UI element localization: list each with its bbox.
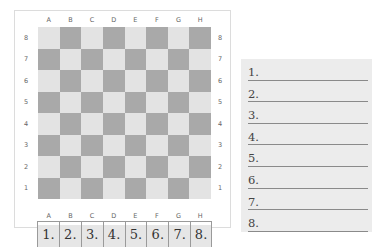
square-a6[interactable] xyxy=(38,70,60,92)
square-h6[interactable] xyxy=(189,70,211,92)
square-g6[interactable] xyxy=(168,70,190,92)
file-label-a: A xyxy=(38,15,60,25)
answer-line-5[interactable]: 5. xyxy=(248,145,368,167)
square-g2[interactable] xyxy=(168,156,190,178)
square-b3[interactable] xyxy=(60,135,82,157)
file-label-h: H xyxy=(189,211,211,221)
square-a8[interactable] xyxy=(38,27,60,49)
square-c5[interactable] xyxy=(81,92,103,114)
column-tab-3[interactable]: 3. xyxy=(81,222,103,247)
square-e2[interactable] xyxy=(125,156,147,178)
square-d4[interactable] xyxy=(103,113,125,135)
square-c6[interactable] xyxy=(81,70,103,92)
answer-line-2[interactable]: 2. xyxy=(248,81,368,103)
square-g5[interactable] xyxy=(168,92,190,114)
rank-label-4: 4 xyxy=(214,120,226,128)
column-tab-6[interactable]: 6. xyxy=(146,222,168,247)
square-h7[interactable] xyxy=(189,49,211,71)
square-d1[interactable] xyxy=(103,178,125,200)
square-f7[interactable] xyxy=(146,49,168,71)
column-tab-1[interactable]: 1. xyxy=(37,222,59,247)
square-d5[interactable] xyxy=(103,92,125,114)
square-f6[interactable] xyxy=(146,70,168,92)
square-d8[interactable] xyxy=(103,27,125,49)
square-c2[interactable] xyxy=(81,156,103,178)
square-g1[interactable] xyxy=(168,178,190,200)
square-g4[interactable] xyxy=(168,113,190,135)
file-label-c: C xyxy=(81,211,103,221)
file-label-d: D xyxy=(103,15,125,25)
square-d3[interactable] xyxy=(103,135,125,157)
answer-line-4[interactable]: 4. xyxy=(248,124,368,146)
column-tab-8[interactable]: 8. xyxy=(190,222,212,247)
square-g8[interactable] xyxy=(168,27,190,49)
square-c7[interactable] xyxy=(81,49,103,71)
column-tab-7[interactable]: 7. xyxy=(168,222,190,247)
square-g3[interactable] xyxy=(168,135,190,157)
square-c4[interactable] xyxy=(81,113,103,135)
rank-labels-left: 8 7 6 5 4 3 2 1 xyxy=(20,27,32,199)
square-e6[interactable] xyxy=(125,70,147,92)
file-label-f: F xyxy=(146,15,168,25)
square-f3[interactable] xyxy=(146,135,168,157)
answer-line-6[interactable]: 6. xyxy=(248,167,368,189)
square-a2[interactable] xyxy=(38,156,60,178)
rank-label-2: 2 xyxy=(20,163,32,171)
square-a3[interactable] xyxy=(38,135,60,157)
square-h3[interactable] xyxy=(189,135,211,157)
file-label-g: G xyxy=(168,211,190,221)
square-c1[interactable] xyxy=(81,178,103,200)
file-labels-top: A B C D E F G H xyxy=(38,15,211,25)
rank-label-5: 5 xyxy=(214,98,226,106)
square-e1[interactable] xyxy=(125,178,147,200)
answer-line-1[interactable]: 1. xyxy=(248,59,368,81)
column-tab-4[interactable]: 4. xyxy=(103,222,125,247)
square-b7[interactable] xyxy=(60,49,82,71)
square-f4[interactable] xyxy=(146,113,168,135)
square-b4[interactable] xyxy=(60,113,82,135)
square-b2[interactable] xyxy=(60,156,82,178)
rank-label-4: 4 xyxy=(20,120,32,128)
file-labels-bottom: A B C D E F G H xyxy=(38,211,211,221)
square-b6[interactable] xyxy=(60,70,82,92)
square-h8[interactable] xyxy=(189,27,211,49)
square-d2[interactable] xyxy=(103,156,125,178)
square-f8[interactable] xyxy=(146,27,168,49)
square-f2[interactable] xyxy=(146,156,168,178)
square-a7[interactable] xyxy=(38,49,60,71)
square-b8[interactable] xyxy=(60,27,82,49)
square-e4[interactable] xyxy=(125,113,147,135)
rank-labels-right: 8 7 6 5 4 3 2 1 xyxy=(214,27,226,199)
square-c3[interactable] xyxy=(81,135,103,157)
square-d7[interactable] xyxy=(103,49,125,71)
square-f5[interactable] xyxy=(146,92,168,114)
answer-line-3[interactable]: 3. xyxy=(248,102,368,124)
column-tab-2[interactable]: 2. xyxy=(59,222,81,247)
square-a1[interactable] xyxy=(38,178,60,200)
square-f1[interactable] xyxy=(146,178,168,200)
square-h1[interactable] xyxy=(189,178,211,200)
square-b5[interactable] xyxy=(60,92,82,114)
square-e5[interactable] xyxy=(125,92,147,114)
file-label-f: F xyxy=(146,211,168,221)
square-d6[interactable] xyxy=(103,70,125,92)
answer-line-8[interactable]: 8. xyxy=(248,210,368,232)
square-a5[interactable] xyxy=(38,92,60,114)
square-e8[interactable] xyxy=(125,27,147,49)
file-label-a: A xyxy=(38,211,60,221)
file-label-e: E xyxy=(125,211,147,221)
square-e3[interactable] xyxy=(125,135,147,157)
square-h2[interactable] xyxy=(189,156,211,178)
square-c8[interactable] xyxy=(81,27,103,49)
square-e7[interactable] xyxy=(125,49,147,71)
square-h5[interactable] xyxy=(189,92,211,114)
file-label-d: D xyxy=(103,211,125,221)
square-h4[interactable] xyxy=(189,113,211,135)
file-label-h: H xyxy=(189,15,211,25)
square-a4[interactable] xyxy=(38,113,60,135)
file-label-g: G xyxy=(168,15,190,25)
square-g7[interactable] xyxy=(168,49,190,71)
answer-line-7[interactable]: 7. xyxy=(248,189,368,211)
column-tab-5[interactable]: 5. xyxy=(125,222,147,247)
square-b1[interactable] xyxy=(60,178,82,200)
